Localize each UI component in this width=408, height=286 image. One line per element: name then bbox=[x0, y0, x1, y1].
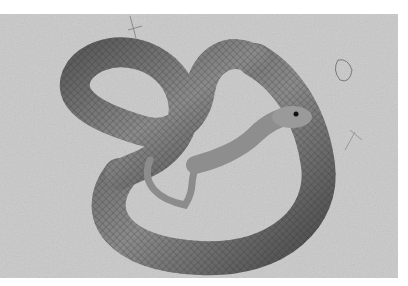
snake-illustration bbox=[0, 14, 398, 278]
snake-photo bbox=[0, 14, 398, 278]
